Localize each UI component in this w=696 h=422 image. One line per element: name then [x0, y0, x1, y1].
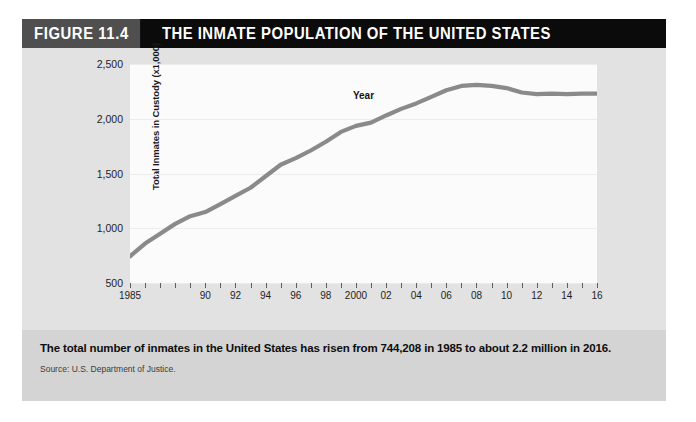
- x-axis-tick-label: 98: [320, 290, 331, 301]
- x-axis-tick: [431, 283, 432, 288]
- x-axis-tick: [341, 283, 342, 288]
- x-axis-tick: [597, 283, 598, 288]
- x-axis-tick: [401, 283, 402, 288]
- x-axis-tick: [205, 283, 206, 288]
- x-axis-tick-label: 92: [230, 290, 241, 301]
- x-axis-ticks: 1985909294969820000204060810121416: [130, 283, 597, 289]
- x-axis-tick-label: 04: [411, 290, 422, 301]
- y-axis-tick-label: 500: [105, 277, 123, 289]
- x-axis-tick: [552, 283, 553, 288]
- x-axis-tick: [356, 283, 357, 288]
- x-axis-tick: [461, 283, 462, 288]
- x-axis-tick: [296, 283, 297, 288]
- x-axis-tick-label: 14: [561, 290, 572, 301]
- x-axis-tick: [190, 283, 191, 288]
- x-axis-tick: [251, 283, 252, 288]
- figure-container: FIGURE 11.4 THE INMATE POPULATION OF THE…: [22, 19, 666, 401]
- x-axis-tick-label: 1985: [119, 290, 141, 301]
- x-axis-tick: [446, 283, 447, 288]
- x-axis-tick-label: 90: [200, 290, 211, 301]
- x-axis-tick-label: 02: [381, 290, 392, 301]
- x-axis-tick: [476, 283, 477, 288]
- x-axis-tick: [311, 283, 312, 288]
- x-axis-tick: [567, 283, 568, 288]
- data-line: [130, 85, 597, 256]
- chart-region: Total Inmates in Custody (x1,000) 5001,0…: [22, 48, 666, 330]
- x-axis-tick-label: 12: [531, 290, 542, 301]
- x-axis-tick: [145, 283, 146, 288]
- x-axis-tick-label: 16: [591, 290, 602, 301]
- figure-number-label: FIGURE 11.4: [22, 19, 140, 48]
- x-axis-tick-label: 2000: [345, 290, 367, 301]
- x-axis-tick: [371, 283, 372, 288]
- y-axis-tick-label: 1,000: [97, 222, 123, 234]
- x-axis-tick-label: 94: [260, 290, 271, 301]
- caption-region: The total number of inmates in the Unite…: [22, 330, 666, 401]
- y-axis-tick-label: 2,000: [97, 113, 123, 125]
- x-axis-tick: [492, 283, 493, 288]
- x-axis-tick: [281, 283, 282, 288]
- x-axis-tick: [326, 283, 327, 288]
- x-axis-tick-label: 08: [471, 290, 482, 301]
- figure-title-text: THE INMATE POPULATION OF THE UNITED STAT…: [149, 19, 551, 48]
- x-axis-tick: [582, 283, 583, 288]
- plot-area: Total Inmates in Custody (x1,000) 5001,0…: [130, 64, 597, 283]
- figure-caption: The total number of inmates in the Unite…: [40, 342, 652, 354]
- x-axis-title: Year: [130, 90, 597, 101]
- x-axis-tick-label: 96: [290, 290, 301, 301]
- x-axis-tick: [507, 283, 508, 288]
- y-axis-tick-label: 2,500: [97, 58, 123, 70]
- y-axis-tick-label: 1,500: [97, 168, 123, 180]
- x-axis-tick: [235, 283, 236, 288]
- x-axis-tick: [522, 283, 523, 288]
- x-axis-tick: [160, 283, 161, 288]
- x-axis-tick: [175, 283, 176, 288]
- figure-title-bar: FIGURE 11.4 THE INMATE POPULATION OF THE…: [22, 19, 666, 48]
- x-axis-tick: [266, 283, 267, 288]
- x-axis-tick: [416, 283, 417, 288]
- figure-source: Source: U.S. Department of Justice.: [40, 364, 176, 374]
- x-axis-tick-label: 10: [501, 290, 512, 301]
- x-axis-tick: [386, 283, 387, 288]
- x-axis-tick: [130, 283, 131, 288]
- x-axis-tick: [537, 283, 538, 288]
- x-axis-tick: [220, 283, 221, 288]
- x-axis-tick-label: 06: [441, 290, 452, 301]
